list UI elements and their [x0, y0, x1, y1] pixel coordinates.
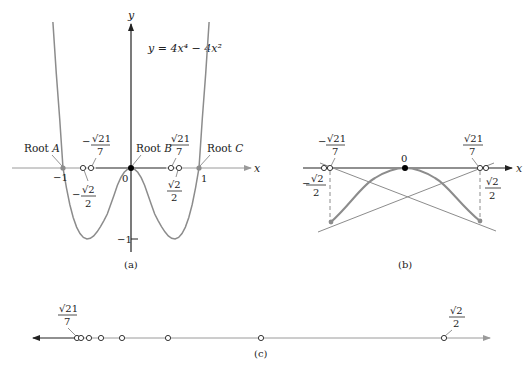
- caption-a: (a): [124, 259, 138, 270]
- svg-text:2: 2: [453, 318, 459, 329]
- marker-b-sqrt21-7: [477, 165, 482, 170]
- svg-text:√21: √21: [327, 133, 346, 144]
- y-tick-neg-one-label: −1: [117, 234, 132, 245]
- svg-text:√2: √2: [486, 176, 499, 187]
- label-c-sqrt21-7: √21 7: [58, 303, 78, 336]
- curve-point-right: [478, 219, 483, 224]
- svg-text:7: 7: [332, 146, 338, 157]
- svg-text:2: 2: [489, 190, 495, 201]
- iterate-marker: [86, 335, 91, 340]
- label-c-sqrt2-2: √2 2: [445, 305, 465, 336]
- marker-neg-sqrt21-7: [88, 165, 93, 170]
- svg-text:7: 7: [176, 146, 182, 157]
- x-axis-label: x: [254, 162, 261, 175]
- center-dot: [402, 165, 408, 171]
- root-c-dot: [196, 165, 201, 170]
- svg-text:√21: √21: [464, 133, 483, 144]
- root-b-label: Root B: [136, 142, 172, 154]
- marker-b-neg-sqrt2-2: [321, 165, 326, 170]
- x-tick-neg-one-label: −1: [53, 172, 68, 183]
- x-axis-label-b: x: [516, 162, 523, 175]
- panel-c: √21 7 √2 2 (c): [33, 303, 490, 359]
- label-b-neg-sqrt21-7: − √21 7: [318, 133, 346, 166]
- svg-text:2: 2: [313, 187, 319, 198]
- svg-text:2: 2: [85, 198, 91, 209]
- marker-sqrt21-7: [168, 165, 173, 170]
- y-axis-label: y: [127, 9, 135, 22]
- label-sqrt2-2: √2 2: [167, 170, 182, 203]
- marker-b-sqrt2-2: [483, 165, 488, 170]
- newton-method-figure: x y −1 y = 4x⁴ − 4x² Root A Root B Root …: [0, 0, 524, 367]
- label-neg-sqrt21-7: − √21 7: [82, 133, 111, 166]
- svg-text:−: −: [72, 189, 80, 200]
- center-label: 0: [401, 153, 407, 164]
- svg-text:−: −: [82, 136, 90, 147]
- label-b-sqrt2-2: √2 2: [485, 176, 501, 201]
- svg-text:√2: √2: [311, 173, 324, 184]
- root-a-dot: [60, 165, 65, 170]
- svg-text:√2: √2: [168, 179, 181, 190]
- root-b-leader: [132, 155, 141, 166]
- root-b-dot: [128, 165, 134, 171]
- iterate-marker: [258, 335, 263, 340]
- caption-c: (c): [254, 348, 268, 359]
- svg-text:−: −: [302, 178, 310, 189]
- label-sqrt21-7: √21 7: [170, 133, 190, 166]
- marker-b-neg-sqrt21-7: [327, 165, 332, 170]
- function-label: y = 4x⁴ − 4x²: [147, 42, 222, 55]
- root-a-label: Root A: [24, 142, 60, 154]
- iterate-marker: [98, 335, 103, 340]
- svg-text:7: 7: [97, 146, 103, 157]
- curve-point-left: [329, 220, 334, 225]
- iterate-marker: [165, 335, 170, 340]
- svg-text:7: 7: [64, 316, 70, 327]
- marker-sqrt2-2: [176, 165, 181, 170]
- svg-text:√21: √21: [171, 133, 190, 144]
- iterate-marker: [441, 335, 446, 340]
- origin-label: 0: [122, 173, 128, 184]
- root-c-label: Root C: [207, 142, 243, 154]
- svg-text:2: 2: [171, 192, 177, 203]
- caption-b: (b): [398, 259, 412, 270]
- marker-neg-sqrt2-2: [80, 165, 85, 170]
- svg-text:√21: √21: [92, 133, 111, 144]
- label-b-neg-sqrt2-2: − √2 2: [302, 173, 326, 198]
- root-c-leader: [200, 155, 210, 166]
- iterate-marker: [78, 335, 83, 340]
- svg-text:7: 7: [469, 146, 475, 157]
- svg-text:−: −: [318, 136, 326, 147]
- label-b-sqrt21-7: √21 7: [463, 133, 483, 166]
- x-tick-one-label: 1: [201, 173, 207, 184]
- svg-text:√21: √21: [59, 303, 78, 314]
- tangent-line-right: [318, 163, 494, 232]
- label-neg-sqrt2-2: − √2 2: [72, 170, 96, 209]
- root-a-leader: [52, 155, 62, 166]
- iterate-marker: [119, 335, 124, 340]
- svg-text:√2: √2: [450, 305, 463, 316]
- panel-a: x y −1 y = 4x⁴ − 4x² Root A Root B Root …: [12, 9, 261, 270]
- panel-b: x 0 − √21 7 − √2: [302, 133, 523, 270]
- svg-text:√2: √2: [82, 184, 95, 195]
